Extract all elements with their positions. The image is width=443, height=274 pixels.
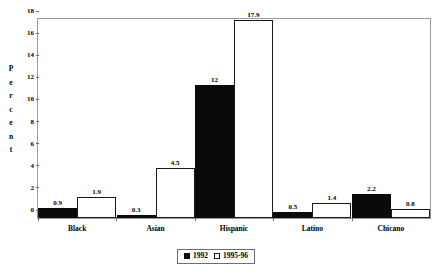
y-axis-tick-label: 10: [24, 95, 34, 103]
bars-layer: 0246810121416180.91.90.34.51217.90.51.42…: [38, 19, 430, 218]
legend-swatch: [214, 253, 220, 259]
bar-value-label: 4.5: [171, 159, 180, 168]
bar-value-label: 0.9: [53, 199, 62, 208]
y-axis-title-letter: t: [10, 143, 13, 157]
bar-value-label: 1.9: [92, 188, 101, 197]
bar-value-label: 17.9: [247, 11, 259, 20]
y-axis-tick: 8: [24, 118, 38, 126]
bar-value-label: 1.4: [328, 194, 337, 203]
y-axis-tick: 2: [24, 184, 38, 192]
y-axis-title: Percent: [4, 62, 18, 157]
bar[interactable]: 1.9: [77, 197, 116, 218]
bar[interactable]: 4.5: [156, 168, 195, 218]
bar-value-label: 0.3: [132, 206, 141, 215]
y-axis-title-letter: e: [9, 116, 12, 130]
x-axis-category-label: Latino: [302, 224, 323, 233]
bar-value-label: 12: [211, 76, 218, 85]
bar-group: 1217.9: [195, 19, 273, 218]
legend-label: 1992: [193, 251, 208, 261]
bar[interactable]: 12: [195, 85, 234, 218]
bar[interactable]: 0.9: [38, 208, 77, 218]
y-axis-tick: 14: [24, 51, 38, 59]
bar[interactable]: 0.3: [117, 215, 156, 218]
y-axis-tick: 12: [24, 73, 38, 81]
y-axis-tick-label: 8: [24, 118, 34, 126]
y-axis-tick-label: 12: [24, 73, 34, 81]
y-axis-tick-label: 14: [24, 51, 34, 59]
legend-label: 1995-96: [223, 251, 248, 261]
bar[interactable]: 1.4: [312, 203, 351, 218]
y-axis-title-letter: n: [9, 130, 13, 144]
y-axis-tick: 18: [24, 7, 38, 15]
y-axis-title-letter: c: [9, 103, 12, 117]
y-axis-tick: 10: [24, 95, 38, 103]
y-axis-tick: 6: [24, 140, 38, 148]
x-axis-category-label: Hispanic: [220, 224, 248, 233]
bar[interactable]: 0.8: [391, 209, 430, 218]
y-axis-tick-label: 2: [24, 184, 34, 192]
y-axis-tick: 0: [24, 206, 38, 214]
y-axis-tick-label: 16: [24, 29, 34, 37]
bar-group: 0.34.5: [116, 19, 194, 218]
y-axis-tick: 4: [24, 162, 38, 170]
bar-group: 0.51.4: [273, 19, 351, 218]
bar-value-label: 0.8: [406, 200, 415, 209]
y-axis-tick: 16: [24, 29, 38, 37]
bar-value-label: 0.5: [289, 203, 298, 212]
x-axis-origin-tick: [38, 217, 39, 221]
bar-group: 2.20.8: [352, 19, 430, 218]
bar[interactable]: 2.2: [352, 194, 391, 218]
legend-entry[interactable]: 1995-96: [214, 251, 248, 261]
plot-area: 0246810121416180.91.90.34.51217.90.51.42…: [37, 18, 431, 219]
x-axis-category-label: Black: [68, 224, 86, 233]
y-axis-title-letter: e: [9, 76, 12, 90]
y-axis-tick-mark: [36, 11, 39, 12]
x-axis-category-label: Asian: [146, 224, 164, 233]
legend-entry[interactable]: 1992: [184, 251, 208, 261]
bar-value-label: 2.2: [367, 185, 376, 194]
y-axis-tick-label: 6: [24, 140, 34, 148]
y-axis-title-letter: P: [9, 62, 14, 76]
legend-swatch: [184, 253, 190, 259]
chart-legend: 19921995-96: [177, 249, 255, 264]
y-axis-tick-label: 0: [24, 206, 34, 214]
y-axis-title-letter: r: [9, 89, 12, 103]
x-axis-category-label: Chicano: [377, 224, 404, 233]
bar-chart-figure: Percent 0246810121416180.91.90.34.51217.…: [0, 0, 443, 274]
bar-group: 0.91.9: [38, 19, 116, 218]
bar[interactable]: 17.9: [234, 20, 273, 218]
y-axis-tick-label: 18: [24, 7, 34, 15]
y-axis-tick-label: 4: [24, 162, 34, 170]
bar[interactable]: 0.5: [273, 212, 312, 218]
